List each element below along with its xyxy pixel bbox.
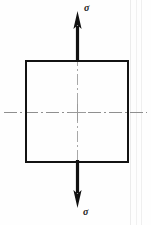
lower-stress-label: σ: [83, 207, 88, 217]
upper-stress-label: σ: [84, 3, 89, 13]
lower-tension-arrow: [73, 160, 81, 208]
upper-tension-arrow: [73, 11, 81, 62]
center-crosshair: [69, 104, 86, 121]
stress-element-figure: σ σ: [0, 0, 151, 225]
figure-canvas: [0, 0, 151, 225]
